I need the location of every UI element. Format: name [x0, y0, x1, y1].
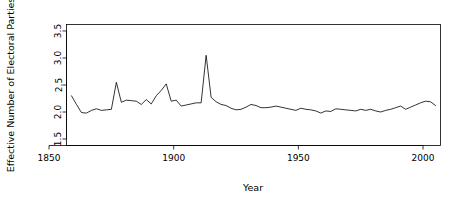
x-tick-label: 1950	[287, 153, 310, 163]
x-tick-labels: 1850190019502000	[38, 153, 435, 163]
y-tick-label: 2.5	[54, 78, 64, 92]
y-tick-label: 1.5	[54, 132, 64, 146]
data-line	[71, 55, 435, 113]
y-axis-title: Effective Number of Electoral Parties	[5, 0, 16, 172]
y-tick-label: 2.0	[54, 105, 64, 120]
y-tick-label: 3.5	[54, 24, 64, 38]
y-tick-labels: 1.52.02.53.03.5	[54, 24, 64, 146]
line-chart: 1.52.02.53.03.5 1850190019502000 Year Ef…	[0, 0, 459, 205]
chart-figure: 1.52.02.53.03.5 1850190019502000 Year Ef…	[0, 0, 459, 205]
x-tick-label: 2000	[412, 153, 435, 163]
x-axis	[49, 146, 423, 150]
data-series-group	[71, 55, 435, 113]
x-axis-title: Year	[242, 182, 263, 193]
x-tick-label: 1850	[38, 153, 61, 163]
x-tick-label: 1900	[162, 153, 185, 163]
y-tick-label: 3.0	[54, 51, 64, 66]
plot-frame	[67, 25, 441, 146]
